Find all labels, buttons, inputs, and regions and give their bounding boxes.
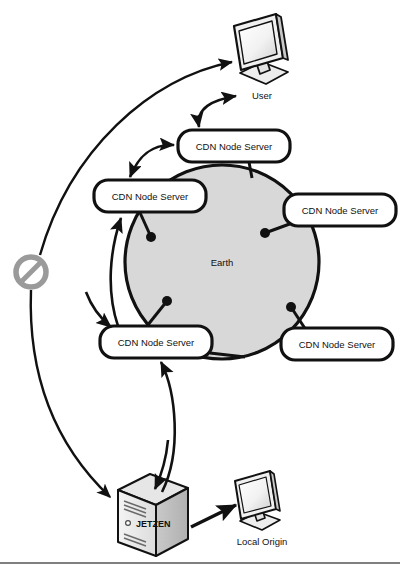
local-origin-monitor-icon: Local Origin <box>235 471 287 547</box>
cdn-node-left[interactable]: CDN Node Server <box>94 180 206 212</box>
local-origin-label: Local Origin <box>237 536 288 547</box>
origin-to-local-origin-arrow <box>191 505 236 527</box>
cdn-left-to-cdn-top-arrow <box>130 145 174 177</box>
cdn-node-bottom-right[interactable]: CDN Node Server <box>281 328 393 360</box>
cdn-node-bottom-right-label: CDN Node Server <box>299 339 376 350</box>
cdn-node-bottom-left[interactable]: CDN Node Server <box>100 326 212 358</box>
origin-to-cdn-bottom-left-arrow <box>161 362 175 492</box>
origin-server-icon: JETZEN <box>118 474 188 556</box>
cdn-topology-diagram: Earth CDN Node Server <box>0 0 400 575</box>
cdn-node-right-label: CDN Node Server <box>302 205 379 216</box>
diagram-canvas: Earth CDN Node Server <box>0 0 400 575</box>
cdn-node-right[interactable]: CDN Node Server <box>284 194 396 226</box>
cdn-node-top-label: CDN Node Server <box>196 141 273 152</box>
cdn-node-top[interactable]: CDN Node Server <box>178 130 290 162</box>
user-monitor-icon: User <box>234 14 288 101</box>
cdn-top-to-user-arrow <box>199 96 236 127</box>
origin-server-brand-label: JETZEN <box>136 519 171 529</box>
cdn-node-bottom-left-label: CDN Node Server <box>118 337 195 348</box>
earth-label: Earth <box>211 257 234 268</box>
cdn-node-left-label: CDN Node Server <box>112 191 189 202</box>
user-label: User <box>252 90 272 101</box>
bypass-to-cdn-bottom-left-arrow <box>86 292 111 327</box>
cdn-bottom-left-to-cdn-left-arrow <box>111 218 121 326</box>
no-entry-icon <box>16 257 46 287</box>
